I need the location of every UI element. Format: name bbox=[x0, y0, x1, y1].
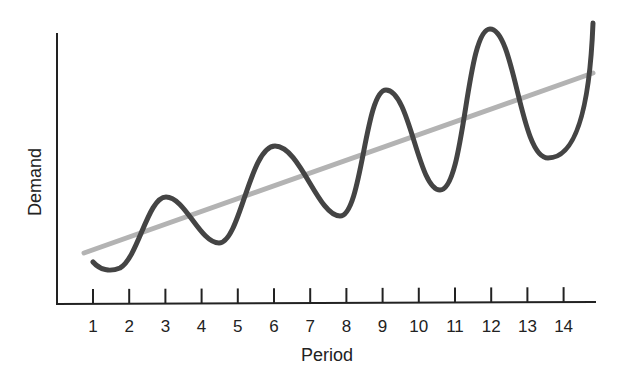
x-axis-tick-labels: 1234567891011121314 bbox=[88, 317, 573, 336]
trend-line bbox=[84, 73, 593, 253]
demand-chart: 1234567891011121314 Period Demand bbox=[0, 0, 623, 390]
x-axis bbox=[56, 302, 596, 304]
x-tick-label: 6 bbox=[269, 317, 278, 336]
x-tick-label: 1 bbox=[88, 317, 97, 336]
y-axis-label: Demand bbox=[25, 148, 45, 216]
x-axis-label: Period bbox=[301, 345, 353, 365]
x-tick-label: 4 bbox=[197, 317, 206, 336]
x-tick-label: 14 bbox=[554, 317, 573, 336]
x-tick-label: 12 bbox=[482, 317, 501, 336]
x-tick-label: 7 bbox=[305, 317, 314, 336]
demand-curve bbox=[93, 23, 593, 270]
x-tick-label: 11 bbox=[446, 317, 464, 336]
x-tick-label: 2 bbox=[124, 317, 133, 336]
x-tick-label: 3 bbox=[161, 317, 170, 336]
x-tick-label: 8 bbox=[342, 317, 351, 336]
x-tick-label: 9 bbox=[378, 317, 387, 336]
x-tick-label: 10 bbox=[409, 317, 428, 336]
x-tick-label: 5 bbox=[233, 317, 242, 336]
x-tick-label: 13 bbox=[518, 317, 537, 336]
